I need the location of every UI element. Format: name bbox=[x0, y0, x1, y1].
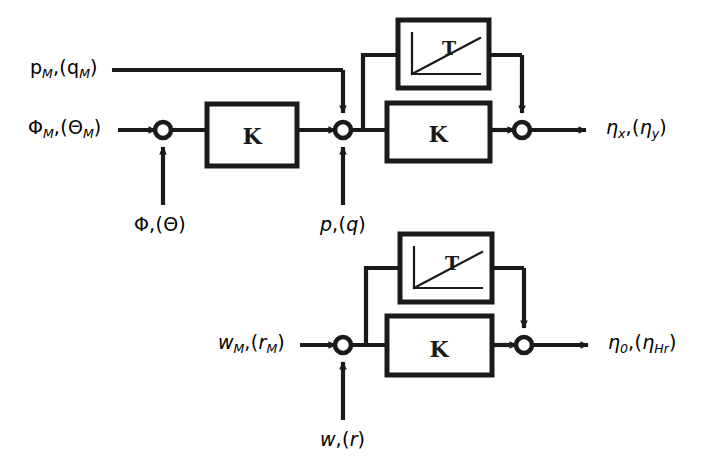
block-t1-label: T bbox=[442, 37, 456, 59]
block-k2-label: K bbox=[428, 121, 448, 147]
label-output-eta-0: η0,(ηHr) bbox=[608, 333, 677, 355]
label-feed-wr: w,(r) bbox=[320, 430, 365, 449]
block-diagram-svg: K T K T K bbox=[0, 0, 704, 472]
label-input-phim: ΦM,(ΘM) bbox=[28, 118, 102, 140]
label-feed-pq: p,(q) bbox=[320, 215, 366, 234]
label-input-pm: pM,(qM) bbox=[30, 58, 98, 80]
label-feed-phi: Φ,(Θ) bbox=[134, 215, 186, 234]
wire-t2-to-sum5 bbox=[490, 268, 524, 328]
summing-junction-2 bbox=[335, 122, 351, 138]
summing-junction-5 bbox=[516, 337, 532, 353]
wire-t1-to-sum3 bbox=[489, 55, 522, 113]
label-input-pm-main: p bbox=[30, 56, 42, 78]
block-k3-label: K bbox=[429, 336, 449, 362]
label-input-wm: wM,(rM) bbox=[218, 333, 285, 355]
block-t2-label: T bbox=[445, 252, 459, 274]
summing-junction-3 bbox=[514, 122, 530, 138]
block-k1-label: K bbox=[242, 123, 262, 149]
figure-canvas: K T K T K pM,(qM) ΦM,(ΘM) Φ,(Θ) p,(q) ηx… bbox=[0, 0, 704, 472]
summing-junction-4 bbox=[335, 337, 351, 353]
label-output-eta-x: ηx,(ηy) bbox=[606, 118, 667, 140]
summing-junction-1 bbox=[155, 122, 171, 138]
